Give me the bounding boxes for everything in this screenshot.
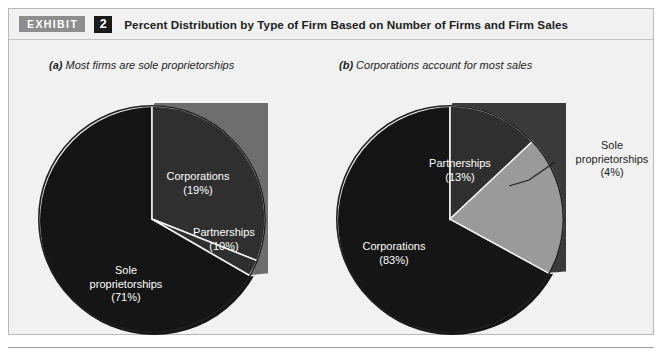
- exhibit-number-badge: 2: [94, 16, 112, 33]
- pie-a-label-corporations-name: Corporations: [142, 170, 254, 184]
- panel-a-marker: (a): [49, 59, 62, 71]
- pie-chart-b: [334, 103, 566, 335]
- exhibit-badge: EXHIBIT: [19, 16, 85, 33]
- pie-a-label-sole-line2: proprietorships: [56, 278, 196, 292]
- pie-a-label-partnerships: Partnerships (10%): [169, 226, 279, 253]
- pie-b-label-sole-line2: proprietorships: [556, 153, 662, 167]
- pie-b-label-corporations: Corporations (83%): [338, 240, 450, 267]
- panel-b-caption: (b) Corporations account for most sales: [339, 59, 532, 71]
- panel-a-caption-text: Most firms are sole proprietorships: [66, 59, 235, 71]
- bottom-divider: [8, 347, 654, 348]
- pie-b-label-corporations-name: Corporations: [338, 240, 450, 254]
- pie-b-label-partnerships-value: (13%): [405, 171, 515, 185]
- exhibit-panel: EXHIBIT 2 Percent Distribution by Type o…: [8, 8, 654, 335]
- panel-a-caption: (a) Most firms are sole proprietorships: [49, 59, 234, 71]
- pie-a-label-partnerships-name: Partnerships: [169, 226, 279, 240]
- pie-b-label-sole-value: (4%): [556, 166, 662, 180]
- pie-b-label-partnerships-name: Partnerships: [405, 157, 515, 171]
- pie-a-label-sole-value: (71%): [56, 291, 196, 305]
- panel-b-caption-text: Corporations account for most sales: [356, 59, 532, 71]
- pie-a-label-corporations: Corporations (19%): [142, 170, 254, 197]
- pie-b-label-sole-line1: Sole: [556, 139, 662, 153]
- panel-b-marker: (b): [339, 59, 353, 71]
- pie-a-label-sole-proprietorships: Sole proprietorships (71%): [56, 264, 196, 305]
- exhibit-title: Percent Distribution by Type of Firm Bas…: [124, 18, 568, 31]
- charts-area: (a) Most firms are sole proprietorships …: [9, 40, 653, 336]
- pie-b-label-sole-proprietorships: Sole proprietorships (4%): [556, 139, 662, 180]
- pie-b-label-corporations-value: (83%): [338, 254, 450, 268]
- pie-b-label-partnerships: Partnerships (13%): [405, 157, 515, 184]
- pie-a-label-sole-line1: Sole: [56, 264, 196, 278]
- pie-a-label-corporations-value: (19%): [142, 184, 254, 198]
- exhibit-header: EXHIBIT 2 Percent Distribution by Type o…: [9, 9, 653, 40]
- pie-a-label-partnerships-value: (10%): [169, 240, 279, 254]
